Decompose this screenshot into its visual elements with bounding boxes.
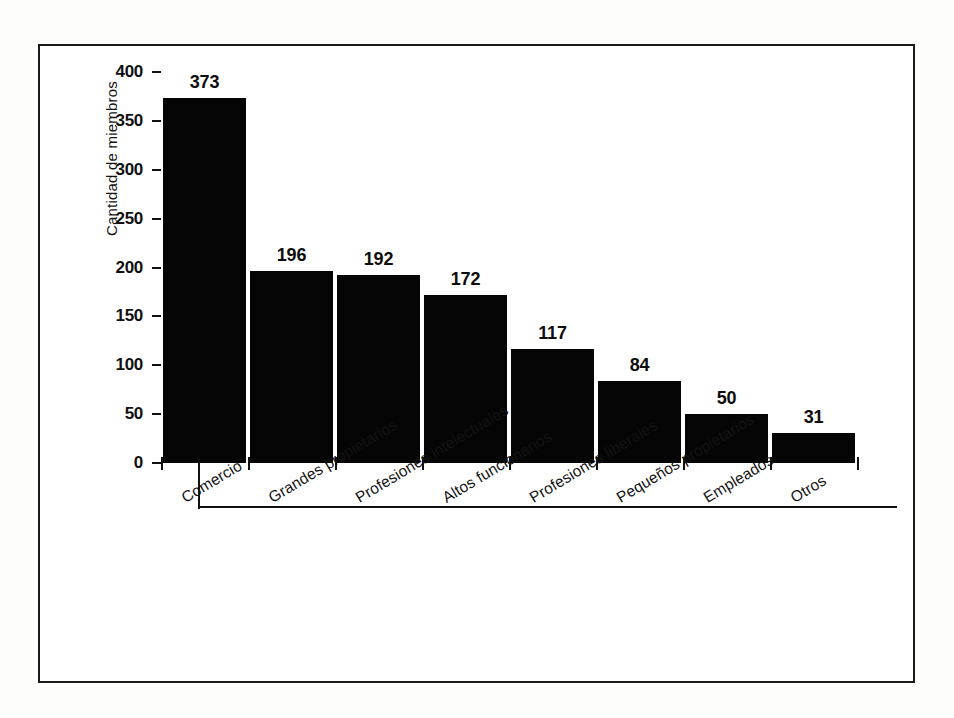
y-axis-tick-label: 400 <box>97 63 143 80</box>
y-axis-tick-label: 250 <box>97 210 143 227</box>
y-axis-tick <box>152 413 161 415</box>
scanned-page: Cantidad de miembros 0501001502002503003… <box>0 0 954 718</box>
bar-value-label: 50 <box>685 388 768 409</box>
y-axis-tick <box>152 169 161 171</box>
y-axis-tick <box>152 267 161 269</box>
x-axis-line <box>198 506 897 508</box>
y-axis-tick-label: 300 <box>97 161 143 178</box>
y-axis-tick <box>152 462 161 464</box>
x-axis-tick <box>857 457 859 470</box>
bar-value-label: 373 <box>163 72 246 93</box>
y-axis-tick-label: 350 <box>97 112 143 129</box>
y-axis-tick <box>152 218 161 220</box>
bar[interactable] <box>772 433 855 463</box>
y-axis-tick-label: 100 <box>97 356 143 373</box>
y-axis-tick-label: 200 <box>97 259 143 276</box>
bar-value-label: 31 <box>772 407 855 428</box>
bar-value-label: 84 <box>598 355 681 376</box>
bar-value-label: 192 <box>337 249 420 270</box>
y-axis-tick <box>152 120 161 122</box>
x-axis-tick-label: Otros <box>787 472 829 507</box>
y-axis-tick-label: 50 <box>97 405 143 422</box>
y-axis-tick <box>152 364 161 366</box>
bar-value-label: 172 <box>424 269 507 290</box>
y-axis-tick-label: 150 <box>97 307 143 324</box>
bar[interactable] <box>250 271 333 463</box>
y-axis-tick <box>152 315 161 317</box>
bar[interactable] <box>163 98 246 463</box>
y-axis-tick-label: 0 <box>97 454 143 471</box>
bar-value-label: 196 <box>250 245 333 266</box>
x-axis-tick-label: Comercio <box>178 457 245 507</box>
y-axis-tick <box>152 71 161 73</box>
figure-frame: Cantidad de miembros 0501001502002503003… <box>38 44 915 683</box>
bar-value-label: 117 <box>511 323 594 344</box>
